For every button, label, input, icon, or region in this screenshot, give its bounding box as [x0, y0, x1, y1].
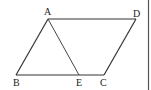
label-d: D: [133, 8, 140, 19]
label-e: E: [76, 77, 82, 88]
segment-ae: [48, 19, 79, 75]
label-b: B: [13, 77, 20, 88]
segment-cd: [104, 19, 136, 75]
segment-ab: [16, 19, 48, 75]
geometry-diagram: A D B E C: [0, 0, 151, 90]
label-a: A: [44, 6, 52, 17]
label-c: C: [100, 77, 107, 88]
